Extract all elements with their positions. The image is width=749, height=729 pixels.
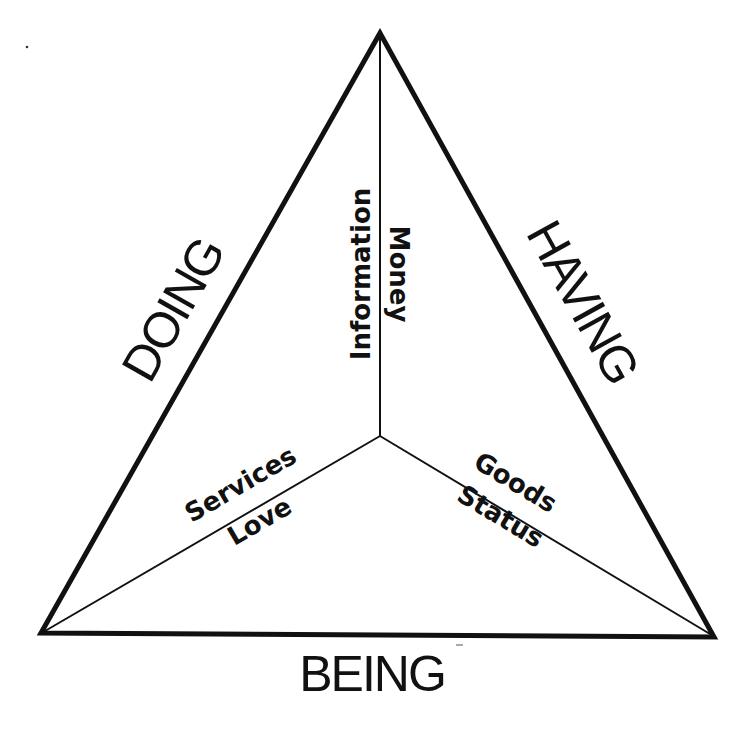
label-information: Information	[346, 188, 376, 361]
label-having: HAVING	[516, 211, 650, 392]
stray-dot	[26, 46, 29, 49]
triangle-diagram: DOING HAVING BEING Information Money Ser…	[0, 0, 749, 729]
label-money: Money	[384, 226, 414, 323]
label-doing: DOING	[111, 229, 236, 391]
spoke-lower-right	[380, 436, 710, 634]
label-being: BEING	[299, 646, 445, 702]
